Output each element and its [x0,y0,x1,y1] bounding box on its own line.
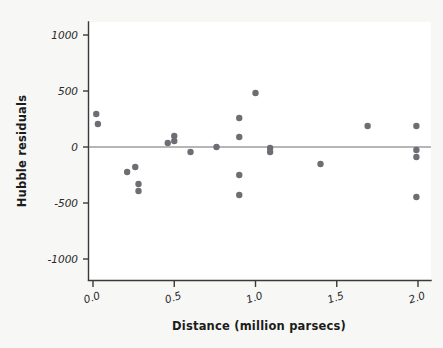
data-point [267,149,273,155]
data-point [95,121,101,127]
data-point [187,149,193,155]
data-point [413,154,419,160]
data-point [236,134,242,140]
data-point [252,90,258,96]
y-axis-title: Hubble residuals [15,95,29,207]
data-point [213,144,219,150]
data-point [93,111,99,117]
data-point [413,194,419,200]
data-point [413,123,419,129]
data-point [165,140,171,146]
data-point [132,164,138,170]
data-point [135,181,141,187]
data-point [317,161,323,167]
y-tick-label: 0 [71,141,78,153]
data-point [413,147,419,153]
x-axis-title: Distance (million parsecs) [172,319,346,333]
plot-panel-background [88,22,431,280]
data-point [135,188,141,194]
data-point [236,192,242,198]
data-point [364,123,370,129]
chart-figure: -1000-50005001000 0.00.51.01.52.0 Distan… [0,0,443,348]
data-point [236,172,242,178]
data-point [236,115,242,121]
y-tick-label: -500 [54,197,78,209]
y-tick-label: 1000 [51,29,78,41]
data-point [124,169,130,175]
y-tick-label: 500 [58,85,78,97]
data-point [171,138,177,144]
scatter-plot: -1000-50005001000 0.00.51.01.52.0 Distan… [0,0,443,348]
y-tick-label: -1000 [47,253,78,265]
